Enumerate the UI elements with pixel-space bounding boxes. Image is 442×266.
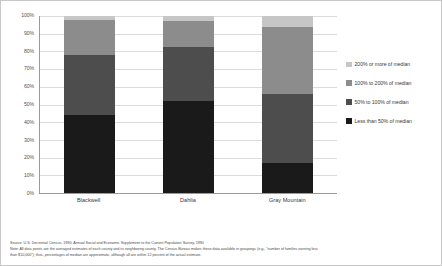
footnote-line: than $10,000"); thus, percentages of med… bbox=[10, 253, 433, 259]
y-axis-tick-label: 40% bbox=[24, 120, 34, 125]
bar-segment[interactable] bbox=[64, 16, 116, 20]
bar-segment[interactable] bbox=[262, 163, 314, 193]
legend-label: Less than 50% of median bbox=[355, 118, 412, 125]
y-axis-tick-label: 30% bbox=[24, 138, 34, 143]
x-axis-tick-label: Dahlia bbox=[162, 198, 214, 204]
bar-segment[interactable] bbox=[262, 16, 314, 27]
legend-label: 200% or more of median bbox=[355, 61, 411, 68]
bar-stack bbox=[262, 16, 314, 193]
plot-region: 0%10%20%30%40%50%60%70%80%90%100% Blackw… bbox=[9, 8, 339, 211]
bar-stack bbox=[163, 16, 215, 193]
bar-segment[interactable] bbox=[262, 27, 314, 94]
bar-segment[interactable] bbox=[64, 55, 116, 115]
bar-segment[interactable] bbox=[262, 94, 314, 163]
bars-layer bbox=[40, 16, 337, 193]
bar-segment[interactable] bbox=[163, 101, 215, 193]
y-axis-tick-label: 90% bbox=[24, 31, 34, 36]
legend-entry[interactable]: 200% or more of median bbox=[346, 61, 438, 68]
legend-entry[interactable]: 50% to 100% of median bbox=[346, 99, 438, 106]
legend-swatch-icon bbox=[346, 62, 352, 68]
y-axis-tick-label: 80% bbox=[24, 49, 34, 54]
legend-swatch-icon bbox=[346, 118, 352, 124]
x-axis: BlackwellDahliaGray Mountain bbox=[39, 195, 337, 211]
legend-entry[interactable]: Less than 50% of median bbox=[346, 118, 438, 125]
x-axis-tick-label: Blackwell bbox=[63, 198, 115, 204]
bar-column[interactable] bbox=[163, 16, 215, 193]
legend-entry[interactable]: 100% to 200% of median bbox=[346, 80, 438, 87]
y-axis-tick-label: 50% bbox=[24, 102, 34, 107]
y-axis-tick-label: 70% bbox=[24, 67, 34, 72]
plot-grid-area bbox=[39, 16, 337, 194]
bar-column[interactable] bbox=[64, 16, 116, 193]
y-axis-tick-label: 10% bbox=[24, 174, 34, 179]
legend-label: 100% to 200% of median bbox=[355, 80, 412, 87]
bar-stack bbox=[64, 16, 116, 193]
bar-segment[interactable] bbox=[163, 47, 215, 101]
chart-figure: 0%10%20%30%40%50%60%70%80%90%100% Blackw… bbox=[0, 0, 442, 266]
y-axis-tick-label: 100% bbox=[21, 13, 34, 18]
legend-label: 50% to 100% of median bbox=[355, 99, 409, 106]
bar-segment[interactable] bbox=[64, 115, 116, 193]
y-axis-tick-label: 20% bbox=[24, 156, 34, 161]
bar-segment[interactable] bbox=[64, 20, 116, 55]
chart-legend: 200% or more of median100% to 200% of me… bbox=[346, 61, 438, 136]
legend-swatch-icon bbox=[346, 80, 352, 86]
y-axis-tick-label: 0% bbox=[27, 191, 34, 196]
bar-segment[interactable] bbox=[163, 21, 215, 47]
y-axis-tick-label: 60% bbox=[24, 85, 34, 90]
x-axis-tick-label: Gray Mountain bbox=[261, 198, 313, 204]
bar-column[interactable] bbox=[262, 16, 314, 193]
footnotes: Source: U.S. Decennial Census, 1990; Ann… bbox=[10, 241, 433, 259]
legend-swatch-icon bbox=[346, 99, 352, 105]
bar-segment[interactable] bbox=[163, 16, 215, 21]
y-axis: 0%10%20%30%40%50%60%70%80%90%100% bbox=[9, 8, 37, 211]
